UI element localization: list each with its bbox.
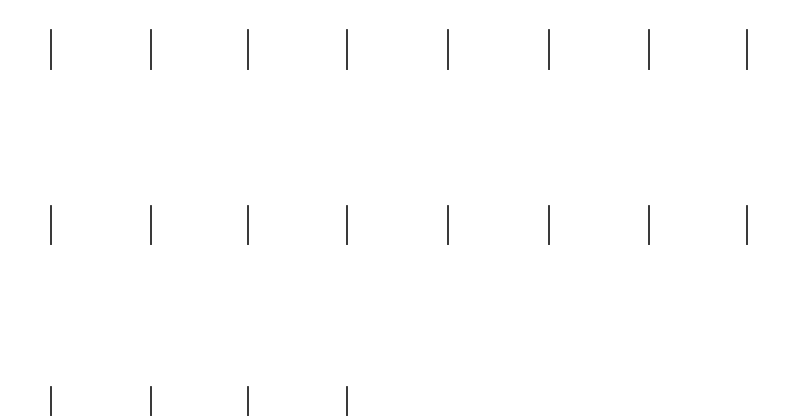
vertical-bar-icon (150, 386, 152, 416)
bar-row-3 (0, 0, 795, 416)
vertical-bar-grid (0, 0, 795, 416)
vertical-bar-icon (50, 386, 52, 416)
vertical-bar-icon (346, 386, 348, 416)
vertical-bar-icon (247, 386, 249, 416)
